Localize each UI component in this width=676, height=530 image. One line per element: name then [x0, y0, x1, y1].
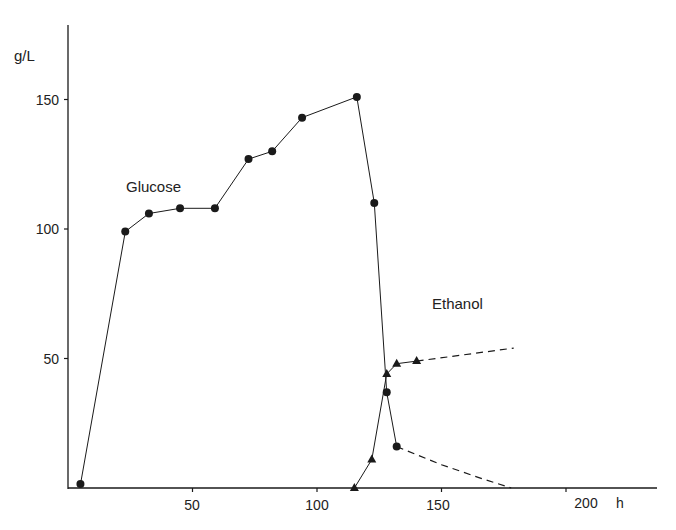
glucose-point: [76, 480, 84, 488]
glucose-point: [211, 204, 219, 212]
glucose-label: Glucose: [126, 178, 181, 195]
glucose-point: [298, 114, 306, 122]
x-tick-200: 200: [566, 495, 606, 511]
glucose-point: [370, 199, 378, 207]
y-axis-unit: g/L: [14, 47, 35, 64]
glucose-point: [121, 228, 129, 236]
glucose-point: [245, 155, 253, 163]
glucose-line: [81, 97, 397, 484]
chart-canvas: [0, 0, 676, 530]
glucose-point: [393, 443, 401, 451]
x-tick-100: 100: [297, 497, 337, 513]
ethanol-point: [367, 455, 376, 463]
glucose-point: [268, 147, 276, 155]
ethanol-label: Ethanol: [432, 295, 483, 312]
ethanol-point: [350, 483, 359, 491]
x-tick-150: 150: [418, 497, 458, 513]
series-layer: [76, 93, 513, 491]
glucose-extrapolated-line: [397, 447, 512, 488]
y-tick-150: 150: [19, 92, 59, 108]
x-axis-unit: h: [616, 495, 624, 511]
y-tick-50: 50: [19, 351, 59, 367]
x-tick-50: 50: [172, 497, 212, 513]
ethanol-point: [392, 359, 401, 367]
ethanol-line: [354, 361, 416, 488]
glucose-point: [145, 209, 153, 217]
y-tick-100: 100: [19, 221, 59, 237]
ethanol-extrapolated-line: [417, 348, 514, 361]
axes: [64, 25, 657, 492]
glucose-point: [176, 204, 184, 212]
glucose-point: [353, 93, 361, 101]
